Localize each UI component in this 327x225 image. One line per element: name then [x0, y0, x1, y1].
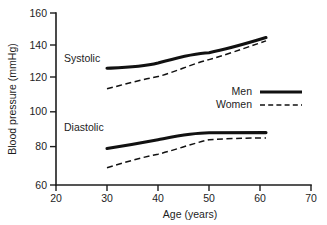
y-axis-title: Blood pressure (mmHg) [6, 43, 18, 154]
chart-svg: 60 80 100 120 140 160 20 30 40 50 60 70 … [0, 0, 327, 225]
x-axis-title: Age (years) [163, 208, 217, 220]
legend-label-men: Men [232, 85, 253, 97]
x-tick-label-50: 50 [203, 192, 215, 204]
x-tick-label-70: 70 [305, 192, 317, 204]
y-tick-label-120: 120 [29, 71, 47, 83]
x-tick-label-30: 30 [101, 192, 113, 204]
x-tick-label-20: 20 [50, 192, 62, 204]
x-tick-label-40: 40 [152, 192, 164, 204]
annotation-diastolic: Diastolic [64, 121, 104, 133]
y-tick-label-100: 100 [29, 105, 47, 117]
x-tick-label-60: 60 [254, 192, 266, 204]
y-tick-label-140: 140 [29, 39, 47, 51]
y-tick-label-80: 80 [35, 140, 47, 152]
annotation-systolic: Systolic [64, 52, 100, 64]
blood-pressure-chart: 60 80 100 120 140 160 20 30 40 50 60 70 … [0, 0, 327, 225]
y-tick-label-160: 160 [29, 7, 47, 19]
legend-label-women: Women [216, 98, 252, 110]
y-tick-label-60: 60 [35, 179, 47, 191]
